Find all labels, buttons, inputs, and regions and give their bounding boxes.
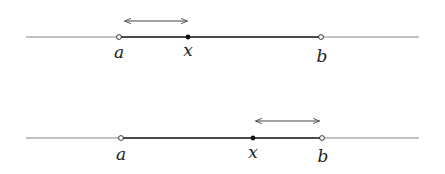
open-point-a — [117, 35, 122, 40]
label-x: x — [248, 142, 258, 162]
number-line-bottom: a x b — [26, 121, 419, 166]
filled-point-x — [186, 35, 191, 40]
open-point-a — [119, 136, 124, 141]
number-line-top: a x b — [26, 21, 419, 66]
label-a: a — [114, 42, 124, 62]
open-point-b — [319, 35, 324, 40]
label-b: b — [318, 146, 329, 166]
filled-point-x — [251, 136, 256, 141]
interval-diagram: a x b a x b — [0, 0, 445, 174]
label-b: b — [317, 46, 328, 66]
label-x: x — [183, 40, 193, 60]
label-a: a — [116, 144, 126, 164]
open-point-b — [320, 136, 325, 141]
